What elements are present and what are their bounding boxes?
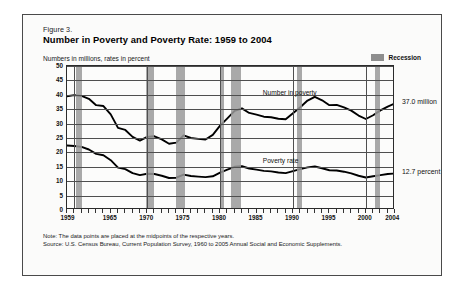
y-tick-label: 45: [47, 76, 63, 83]
x-tick-mark: [314, 209, 315, 213]
x-tick-mark: [277, 209, 278, 213]
source-line: Source: U.S. Census Bureau, Current Popu…: [43, 241, 429, 249]
x-tick-mark: [328, 209, 329, 213]
x-tick-mark: [372, 209, 373, 213]
x-tick-mark: [358, 209, 359, 213]
x-tick-label: 1985: [248, 214, 262, 221]
x-tick-mark: [387, 209, 388, 213]
x-tick-mark: [241, 209, 242, 213]
gridline-horizontal: [67, 95, 393, 96]
x-axis-labels: 1959196519701975198019851990199520002004: [66, 209, 394, 225]
figure-panel: Figure 3. Number in Poverty and Poverty …: [22, 14, 442, 276]
x-tick-mark: [307, 209, 308, 213]
y-tick-label: 35: [47, 105, 63, 112]
y-tick-label: 5: [47, 191, 63, 198]
gridline-horizontal: [67, 152, 393, 153]
plot-canvas: [66, 65, 394, 209]
gridline-vertical: [147, 66, 148, 208]
gridline-horizontal: [67, 109, 393, 110]
x-tick-mark: [270, 209, 271, 213]
x-tick-mark: [110, 209, 111, 213]
x-tick-mark: [285, 209, 286, 213]
x-tick-mark: [219, 209, 220, 213]
end-value-number-in-poverty: 37.0 million: [402, 98, 437, 105]
gridline-vertical: [293, 66, 294, 208]
note-line: Note: The data points are placed at the …: [43, 233, 429, 241]
recession-band: [297, 66, 302, 208]
x-tick-mark: [66, 209, 67, 213]
x-tick-mark: [394, 209, 395, 213]
x-tick-label: 1980: [212, 214, 226, 221]
gridline-vertical: [74, 66, 75, 208]
recession-band: [231, 66, 241, 208]
recession-band: [375, 66, 380, 208]
x-tick-mark: [161, 209, 162, 213]
gridline-vertical: [366, 66, 367, 208]
recession-swatch-icon: [371, 54, 384, 61]
x-tick-mark: [183, 209, 184, 213]
gridline-vertical: [220, 66, 221, 208]
y-axis-labels: 05101520253035404550: [44, 65, 66, 209]
gridline-horizontal: [67, 124, 393, 125]
series-label-poverty-rate: Poverty rate: [263, 157, 299, 164]
x-tick-label: 1975: [176, 214, 190, 221]
x-tick-mark: [88, 209, 89, 213]
y-tick-label: 10: [47, 177, 63, 184]
gridline-horizontal: [67, 80, 393, 81]
x-tick-mark: [81, 209, 82, 213]
x-tick-label: 2000: [358, 214, 372, 221]
legend: Recession: [371, 54, 421, 61]
x-tick-label: 1970: [139, 214, 153, 221]
x-tick-label: 1995: [321, 214, 335, 221]
x-tick-mark: [102, 209, 103, 213]
x-tick-mark: [350, 209, 351, 213]
x-tick-mark: [299, 209, 300, 213]
x-tick-label: 1990: [285, 214, 299, 221]
x-tick-mark: [146, 209, 147, 213]
x-tick-mark: [139, 209, 140, 213]
x-tick-mark: [124, 209, 125, 213]
y-tick-label: 25: [47, 134, 63, 141]
x-tick-mark: [343, 209, 344, 213]
legend-label-recession: Recession: [388, 54, 421, 61]
x-tick-mark: [256, 209, 257, 213]
x-tick-mark: [365, 209, 366, 213]
x-tick-mark: [95, 209, 96, 213]
x-tick-label: 2004: [385, 214, 399, 221]
x-tick-mark: [263, 209, 264, 213]
x-tick-mark: [73, 209, 74, 213]
gridline-horizontal: [67, 196, 393, 197]
gridline-horizontal: [67, 66, 393, 67]
x-tick-mark: [204, 209, 205, 213]
gridline-horizontal: [67, 167, 393, 168]
figure-notes: Note: The data points are placed at the …: [43, 233, 429, 249]
x-tick-mark: [226, 209, 227, 213]
x-tick-mark: [153, 209, 154, 213]
gridline-horizontal: [67, 181, 393, 182]
figure-number: Figure 3.: [43, 25, 72, 34]
x-tick-mark: [212, 209, 213, 213]
y-tick-label: 30: [47, 119, 63, 126]
x-tick-mark: [197, 209, 198, 213]
x-tick-mark: [234, 209, 235, 213]
end-value-poverty-rate: 12.7 percent: [402, 168, 440, 175]
series-label-number-in-poverty: Number in poverty: [263, 89, 317, 96]
x-tick-mark: [336, 209, 337, 213]
x-tick-mark: [248, 209, 249, 213]
y-tick-label: 50: [47, 62, 63, 69]
gridline-horizontal: [67, 138, 393, 139]
x-tick-mark: [168, 209, 169, 213]
y-tick-label: 40: [47, 90, 63, 97]
recession-band: [176, 66, 185, 208]
x-tick-mark: [117, 209, 118, 213]
x-tick-mark: [321, 209, 322, 213]
x-tick-mark: [175, 209, 176, 213]
y-tick-label: 15: [47, 162, 63, 169]
x-tick-mark: [132, 209, 133, 213]
recession-band: [76, 66, 82, 208]
x-tick-label: 1959: [60, 214, 74, 221]
y-tick-label: 20: [47, 148, 63, 155]
x-tick-label: 1965: [103, 214, 117, 221]
plot-area: 05101520253035404550 1959196519701975198…: [44, 65, 394, 223]
x-tick-mark: [190, 209, 191, 213]
